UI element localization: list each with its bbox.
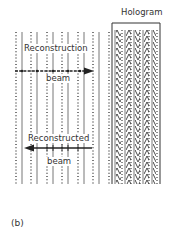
hologram-label: Hologram (120, 8, 164, 17)
diagram-canvas (0, 0, 172, 234)
reconstructed-beam-label: Reconstructed (27, 134, 90, 143)
reconstructed-beam-label-line2: beam (46, 157, 72, 166)
hologram-plate (112, 23, 160, 184)
reconstruction-beam-label: Reconstruction (23, 44, 89, 53)
hologram-reconstruction-diagram: Hologram Reconstruction beam Reconstruct… (0, 0, 172, 234)
panel-label: (b) (11, 218, 24, 228)
reconstruction-beam-label-line2: beam (45, 74, 71, 83)
reconstructed-beam-arrow (24, 145, 92, 152)
